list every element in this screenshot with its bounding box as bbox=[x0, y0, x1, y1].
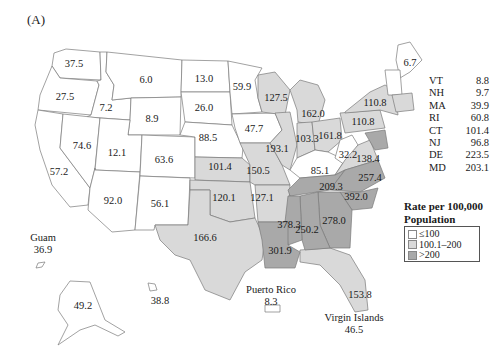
state-hi bbox=[148, 283, 157, 291]
territory-value: 36.9 bbox=[30, 244, 56, 256]
state-abbr: CT bbox=[429, 125, 442, 137]
table-row: VT8.8 bbox=[429, 75, 489, 87]
state-value: 101.4 bbox=[465, 125, 489, 137]
state-ma-ct-ri bbox=[392, 93, 414, 112]
label-hi: 38.8 bbox=[151, 295, 169, 306]
legend-label: ≤100 bbox=[419, 229, 440, 240]
label-va: 138.4 bbox=[356, 153, 380, 164]
label-ny: 110.8 bbox=[363, 97, 386, 108]
state-abbr: MD bbox=[429, 162, 446, 174]
label-wv: 32.2 bbox=[339, 149, 357, 160]
legend-item-high: >200 bbox=[408, 250, 476, 261]
label-in: 103.3 bbox=[295, 133, 319, 144]
table-row: NH9.7 bbox=[429, 87, 489, 99]
label-ia: 47.7 bbox=[245, 123, 263, 134]
state-value: 8.8 bbox=[476, 75, 489, 87]
legend-label: >200 bbox=[419, 250, 440, 261]
label-az: 92.0 bbox=[104, 195, 122, 206]
label-sd: 26.0 bbox=[195, 102, 213, 113]
label-mi: 162.0 bbox=[301, 108, 325, 119]
state-abbr: NJ bbox=[429, 137, 441, 149]
label-or: 27.5 bbox=[56, 91, 74, 102]
table-row: MA39.9 bbox=[429, 100, 489, 112]
table-row: CT101.4 bbox=[429, 125, 489, 137]
label-wa: 37.5 bbox=[65, 58, 83, 69]
table-row: NJ96.8 bbox=[429, 137, 489, 149]
state-abbr: DE bbox=[429, 149, 443, 161]
label-mt: 6.0 bbox=[139, 74, 152, 85]
territory-value: 8.3 bbox=[246, 296, 296, 308]
legend-title: Rate per 100,000 Population bbox=[404, 200, 483, 226]
label-id: 7.2 bbox=[99, 102, 112, 113]
label-tx: 166.6 bbox=[193, 232, 217, 243]
label-nd: 13.0 bbox=[195, 73, 213, 84]
label-mn: 59.9 bbox=[233, 81, 251, 92]
table-row: MD203.1 bbox=[429, 162, 489, 174]
label-nc: 257.4 bbox=[358, 172, 382, 183]
state-value: 203.1 bbox=[465, 162, 489, 174]
swatch-high bbox=[408, 251, 417, 260]
territory-value: 46.5 bbox=[325, 324, 384, 336]
label-ut: 12.1 bbox=[108, 147, 126, 158]
label-ne: 88.5 bbox=[199, 132, 217, 143]
label-co: 63.6 bbox=[155, 154, 173, 165]
label-tn: 209.3 bbox=[319, 181, 343, 192]
state-value: 9.7 bbox=[476, 87, 489, 99]
state-value: 60.8 bbox=[471, 112, 489, 124]
label-ak: 49.2 bbox=[74, 300, 92, 311]
label-wi: 127.5 bbox=[264, 92, 288, 103]
label-nm: 56.1 bbox=[151, 198, 169, 209]
state-abbr: RI bbox=[429, 112, 440, 124]
label-ga: 278.0 bbox=[322, 215, 346, 226]
label-ky: 85.1 bbox=[311, 165, 329, 176]
label-ok: 120.1 bbox=[212, 192, 236, 203]
label-la: 301.9 bbox=[268, 245, 292, 256]
swatch-low bbox=[408, 230, 417, 239]
state-ak bbox=[58, 281, 125, 345]
state-fl bbox=[300, 248, 368, 312]
label-il: 193.1 bbox=[265, 143, 289, 154]
state-abbr: VT bbox=[429, 75, 443, 87]
label-ca: 57.2 bbox=[50, 166, 68, 177]
state-value: 96.8 bbox=[471, 137, 489, 149]
territory-name: Virgin Islands bbox=[325, 312, 384, 324]
territory-name: Puerto Rico bbox=[246, 284, 296, 296]
label-mo: 150.5 bbox=[246, 165, 270, 176]
territory-guam-label: Guam 36.9 bbox=[30, 232, 56, 256]
legend: ≤100 100.1–200 >200 bbox=[404, 226, 480, 262]
state-vt-nh bbox=[385, 70, 402, 95]
label-oh: 161.8 bbox=[318, 130, 342, 141]
state-abbr: MA bbox=[429, 100, 446, 112]
territory-name: Guam bbox=[30, 232, 56, 244]
label-sc: 392.0 bbox=[344, 191, 368, 202]
table-row: RI60.8 bbox=[429, 112, 489, 124]
state-value: 223.5 bbox=[465, 149, 489, 161]
label-ar: 127.1 bbox=[250, 192, 274, 203]
table-row: DE223.5 bbox=[429, 149, 489, 161]
legend-title-line2: Population bbox=[404, 213, 483, 226]
state-value: 39.9 bbox=[471, 100, 489, 112]
label-nv: 74.6 bbox=[73, 140, 91, 151]
swatch-mid bbox=[408, 240, 417, 249]
label-fl: 153.8 bbox=[348, 289, 372, 300]
territory-guam bbox=[36, 262, 45, 268]
territory-puerto-rico-label: Puerto Rico 8.3 bbox=[246, 284, 296, 308]
label-me: 6.7 bbox=[403, 57, 416, 68]
small-states-table: VT8.8 NH9.7 MA39.9 RI60.8 CT101.4 NJ96.8… bbox=[429, 75, 489, 174]
label-ks: 101.4 bbox=[208, 161, 232, 172]
label-al: 250.2 bbox=[295, 224, 319, 235]
legend-item-low: ≤100 bbox=[408, 229, 476, 240]
label-wy: 8.9 bbox=[145, 113, 158, 124]
label-pa: 110.8 bbox=[351, 116, 374, 127]
state-abbr: NH bbox=[429, 87, 444, 99]
legend-title-line1: Rate per 100,000 bbox=[404, 200, 483, 213]
territory-virgin-islands-label: Virgin Islands 46.5 bbox=[325, 312, 384, 336]
